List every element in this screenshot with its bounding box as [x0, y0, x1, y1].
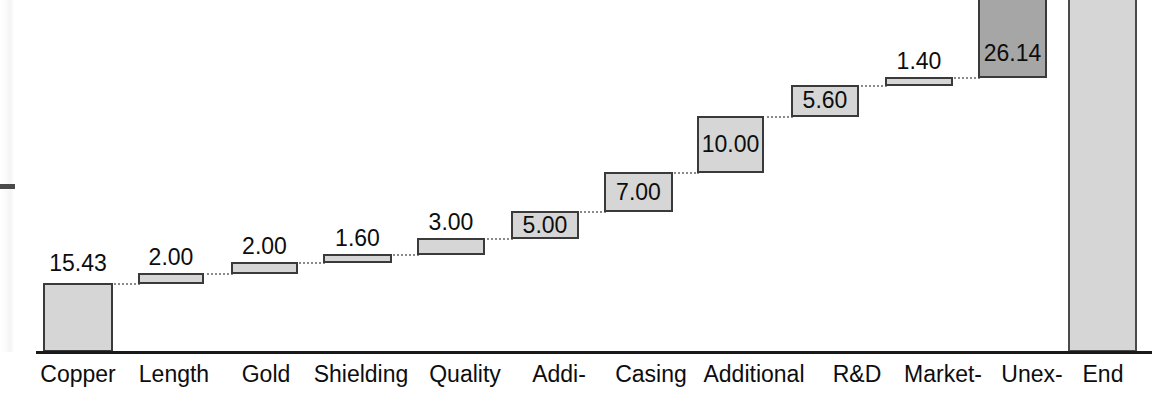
bar-unex — [978, 0, 1047, 78]
connector-line — [951, 77, 980, 79]
bar-quality — [417, 238, 485, 255]
value-label: 5.00 — [511, 214, 579, 237]
left-axis-tick — [0, 184, 15, 189]
value-label: 7.00 — [604, 181, 673, 204]
value-label: 26.14 — [978, 42, 1047, 65]
value-label: 10.00 — [697, 133, 764, 156]
value-label: 1.60 — [323, 227, 392, 250]
baseline-axis — [36, 351, 1152, 354]
connector-line — [671, 172, 699, 174]
value-label: 2.00 — [138, 246, 204, 269]
bar-market — [885, 77, 953, 86]
bar-copper — [43, 283, 113, 352]
bar-length — [138, 273, 204, 284]
connector-line — [577, 211, 606, 213]
category-label-quality: Quality — [410, 362, 520, 387]
value-label: 1.40 — [885, 50, 953, 73]
plot-area: 15.432.002.001.603.005.007.0010.005.601.… — [0, 0, 1152, 394]
connector-line — [296, 262, 325, 264]
connector-line — [111, 283, 140, 285]
connector-line — [202, 273, 233, 275]
value-label: 2.00 — [231, 235, 298, 258]
connector-line — [762, 116, 793, 118]
category-label-shielding: Shielding — [300, 362, 422, 387]
value-label: 3.00 — [417, 211, 485, 234]
left-edge-artifact — [0, 0, 14, 352]
bar-gold — [231, 262, 298, 274]
category-label-r-d: R&D — [822, 362, 892, 387]
waterfall-chart: 15.432.002.001.603.005.007.0010.005.601.… — [0, 0, 1152, 394]
bar-end — [1068, 0, 1137, 352]
connector-line — [390, 254, 419, 256]
connector-line — [857, 85, 887, 87]
category-label-unex: Unex- — [982, 362, 1082, 387]
value-label: 15.43 — [43, 252, 113, 275]
category-label-addi: Addi- — [508, 362, 610, 387]
bar-shielding — [323, 254, 392, 263]
value-label: 5.60 — [791, 89, 859, 112]
connector-line — [483, 238, 513, 240]
category-label-end: End — [1068, 362, 1138, 387]
category-label-additional: Additional — [684, 362, 824, 387]
